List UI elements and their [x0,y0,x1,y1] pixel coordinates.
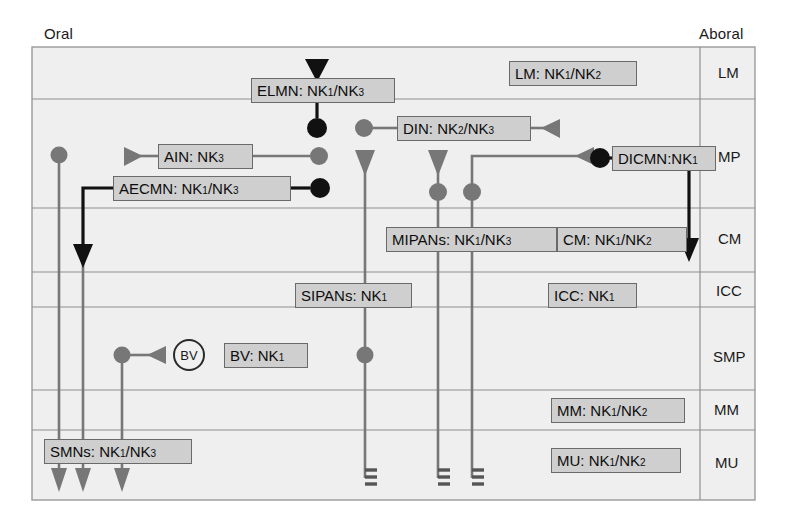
node-cm[interactable]: CM: NK1/NK2 [557,227,687,252]
row-label-mu: MU [715,454,738,471]
node-lm-label: LM: NK [515,66,565,81]
node-mipans-label: MIPANs: NK [392,232,475,247]
node-bv-label: BV: NK [230,348,279,363]
node-smns-label: SMNs: NK [50,444,120,459]
node-smns-mid: /NK [126,444,151,459]
node-mm[interactable]: MM: NK1/NK2 [551,398,685,423]
node-bv[interactable]: BV: NK1 [224,343,308,368]
node-mm-label: MM: NK [557,403,611,418]
node-dicmn[interactable]: DICMN:NK1 [612,146,716,171]
node-icc-label: ICC: NK [554,288,609,303]
node-bv-sub1: 1 [279,353,285,363]
node-aecmn-sub1: 1 [202,186,208,196]
node-mu-sub1: 1 [610,458,616,468]
node-din-label: DIN: NK [403,121,458,136]
node-mu-sub2: 2 [640,458,646,468]
node-dicmn-label: DICMN:NK [618,151,692,166]
row-label-mp: MP [718,148,741,165]
diagram-canvas: .excit{stroke:#111;stroke-width:3.2;fill… [0,0,788,528]
node-lm[interactable]: LM: NK1/NK2 [509,61,637,86]
node-mu-mid: /NK [615,453,640,468]
node-aecmn[interactable]: AECMN: NK1/NK3 [113,176,291,201]
node-elmn-sub1: 1 [328,88,334,98]
orientation-label-oral: Oral [44,25,73,42]
node-smns[interactable]: SMNs: NK1/NK3 [44,439,192,464]
node-din-mid: /NK [464,121,489,136]
node-aecmn-sub2: 3 [233,186,239,196]
node-cm-sub2: 2 [646,237,652,247]
node-ain[interactable]: AIN: NK3 [158,144,253,169]
node-mm-mid: /NK [617,403,642,418]
orientation-label-aboral: Aboral [699,25,744,42]
node-din[interactable]: DIN: NK2/NK3 [397,116,531,141]
node-cm-label: CM: NK [563,232,616,247]
node-sipans-label: SIPANs: NK [301,288,382,303]
row-label-icc: ICC [716,282,742,299]
node-aecmn-mid: /NK [208,181,233,196]
bv-circle-marker: BV [173,339,205,371]
node-mu-label: MU: NK [557,453,610,468]
row-label-mm: MM [714,401,739,418]
row-label-smp: SMP [713,348,746,365]
node-mipans[interactable]: MIPANs: NK1/NK3 [386,227,557,252]
node-elmn-mid: /NK [333,83,358,98]
node-mm-sub1: 1 [611,408,617,418]
node-elmn-label: ELMN: NK [257,83,328,98]
node-mipans-sub2: 3 [506,237,512,247]
node-mipans-mid: /NK [481,232,506,247]
node-sipans-sub1: 1 [382,293,388,303]
row-label-lm: LM [718,64,739,81]
node-aecmn-label: AECMN: NK [119,181,202,196]
node-lm-sub1: 1 [565,71,571,81]
panel-background [32,47,755,500]
node-din-sub1: 2 [458,126,464,136]
node-icc-sub1: 1 [609,293,615,303]
node-sipans[interactable]: SIPANs: NK1 [295,283,412,308]
node-elmn[interactable]: ELMN: NK1/NK3 [251,78,395,103]
node-mm-sub2: 2 [642,408,648,418]
node-lm-mid: /NK [571,66,596,81]
node-din-sub2: 3 [489,126,495,136]
node-smns-sub1: 1 [120,449,126,459]
node-ain-sub1: 3 [218,154,224,164]
node-cm-mid: /NK [621,232,646,247]
node-cm-sub1: 1 [616,237,622,247]
node-elmn-sub2: 3 [358,88,364,98]
node-mipans-sub1: 1 [475,237,481,247]
node-lm-sub2: 2 [596,71,602,81]
node-smns-sub2: 3 [151,449,157,459]
node-mu[interactable]: MU: NK1/NK2 [551,448,681,473]
row-label-cm: CM [718,230,741,247]
node-ain-label: AIN: NK [164,149,218,164]
bv-circle-label: BV [180,348,197,363]
node-dicmn-sub1: 1 [692,156,698,166]
node-icc[interactable]: ICC: NK1 [548,283,637,308]
